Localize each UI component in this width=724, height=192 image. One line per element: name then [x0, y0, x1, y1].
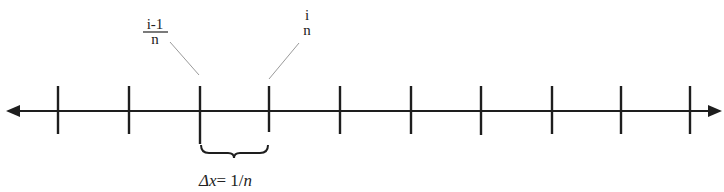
axis [6, 105, 722, 117]
curly-brace-icon [201, 145, 268, 158]
delta-var: n [244, 171, 253, 190]
label-top: i [305, 7, 309, 23]
leader-lines [170, 42, 299, 79]
right-arrow-icon [708, 105, 722, 117]
fraction-denominator: n [151, 31, 159, 47]
delta-eq: = 1/ [217, 171, 244, 190]
leader-line-left [170, 42, 199, 75]
left-arrow-icon [6, 105, 20, 117]
leader-line-right [269, 43, 299, 79]
delta-x-label: Δx= 1/n [198, 171, 252, 190]
label-bottom: n [303, 22, 311, 38]
fraction-numerator: i-1 [147, 16, 164, 32]
label-i-over-n: i n [303, 7, 311, 38]
delta-symbol: Δx [198, 171, 217, 190]
label-i-minus-1-over-n: i-1 n [143, 16, 168, 47]
number-line-diagram: i-1 n i n Δx= 1/n [0, 0, 724, 192]
ticks [58, 86, 690, 144]
